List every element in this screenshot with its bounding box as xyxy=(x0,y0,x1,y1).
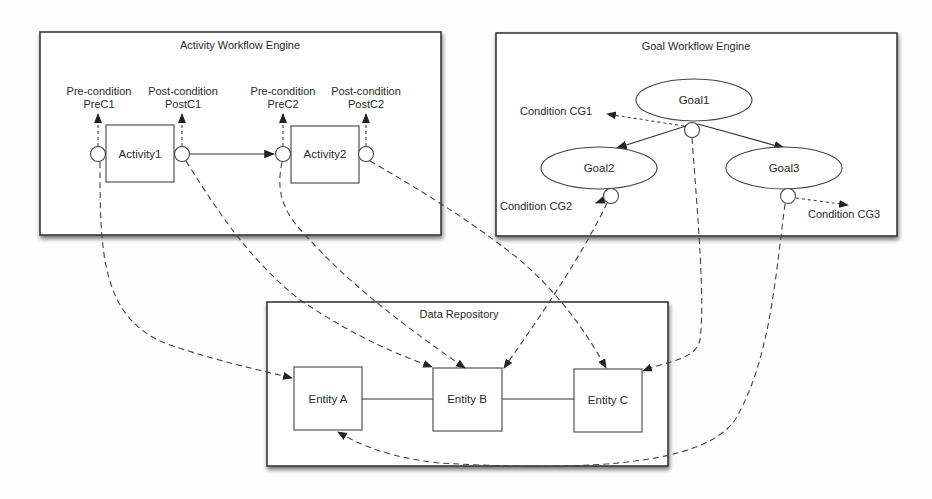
entity-c-label: Entity C xyxy=(588,394,628,406)
activity-engine-title: Activity Workflow Engine xyxy=(180,39,300,51)
diagram-canvas: Activity Workflow Engine Activity1 Pre-c… xyxy=(0,0,932,499)
precondition-2-name: PreC2 xyxy=(267,98,298,110)
postcondition-1-title: Post-condition xyxy=(148,85,218,97)
postcondition-2-title: Post-condition xyxy=(331,85,401,97)
entity-b[interactable]: Entity B xyxy=(433,368,502,431)
data-repository: Data Repository Entity A Entity B Entity… xyxy=(267,302,668,466)
entity-a-label: Entity A xyxy=(309,393,348,405)
precondition-2-title: Pre-condition xyxy=(251,85,316,97)
goal-3-label: Goal3 xyxy=(769,162,800,174)
goal-2[interactable]: Goal2 xyxy=(541,147,657,189)
goal-engine-title: Goal Workflow Engine xyxy=(642,40,751,52)
entity-c[interactable]: Entity C xyxy=(574,369,642,432)
activity-1-precondition-port[interactable] xyxy=(91,147,106,162)
goal-1-condition-port[interactable] xyxy=(685,123,700,138)
postcondition-1-name: PostC1 xyxy=(165,98,201,110)
condition-cg1-label: Condition CG1 xyxy=(520,105,592,117)
goal-3[interactable]: Goal3 xyxy=(726,147,842,189)
goal-3-condition-port[interactable] xyxy=(781,189,796,204)
postcondition-2-name: PostC2 xyxy=(348,98,384,110)
data-repository-title: Data Repository xyxy=(420,308,499,320)
precondition-1-name: PreC1 xyxy=(83,98,114,110)
entity-b-label: Entity B xyxy=(447,393,487,405)
activity-2-label: Activity2 xyxy=(304,148,347,160)
activity-2-precondition-port[interactable] xyxy=(276,147,291,162)
activity-1[interactable]: Activity1 xyxy=(106,125,174,182)
goal-1[interactable]: Goal1 xyxy=(636,79,752,121)
goal-workflow-engine: Goal Workflow Engine Goal1 Condition CG1… xyxy=(496,33,897,236)
activity-2-postcondition-port[interactable] xyxy=(359,147,374,162)
activity-2[interactable]: Activity2 xyxy=(291,126,359,183)
goal-2-condition-port[interactable] xyxy=(604,189,619,204)
activity-1-label: Activity1 xyxy=(119,148,162,160)
goal-1-label: Goal1 xyxy=(679,94,710,106)
condition-cg3-label: Condition CG3 xyxy=(808,208,880,220)
architecture-diagram: Activity Workflow Engine Activity1 Pre-c… xyxy=(0,0,932,499)
entity-a[interactable]: Entity A xyxy=(294,367,362,430)
precondition-1-title: Pre-condition xyxy=(67,85,132,97)
goal-2-label: Goal2 xyxy=(584,162,615,174)
activity-1-postcondition-port[interactable] xyxy=(175,147,190,162)
condition-cg2-label: Condition CG2 xyxy=(500,200,572,212)
